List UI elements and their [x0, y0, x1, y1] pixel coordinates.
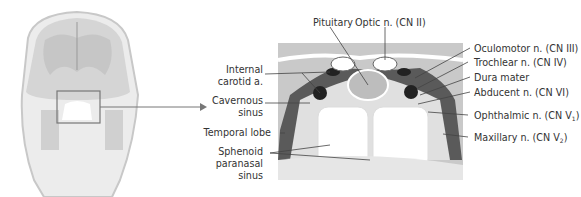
- arrow-icon: [200, 103, 207, 111]
- label-maxillary: Maxillary n. (CN V2): [474, 132, 567, 147]
- label-sphenoid-sinus: Sphenoid paranasal sinus: [216, 146, 263, 182]
- label-abducent: Abducent n. (CN VI): [474, 87, 569, 99]
- label-internal-carotid: Internal carotid a.: [218, 64, 263, 88]
- label-optic-nerve: Optic n. (CN II): [355, 17, 426, 29]
- label-dura-mater: Dura mater: [474, 72, 529, 84]
- cavernous-sinus-detail: [278, 43, 463, 180]
- coronal-head-overview: [22, 12, 207, 197]
- label-temporal-lobe: Temporal lobe: [203, 127, 271, 139]
- label-oculomotor: Oculomotor n. (CN III): [474, 43, 578, 55]
- label-ophthalmic: Ophthalmic n. (CN V1): [474, 110, 579, 125]
- label-cavernous-sinus: Cavernous sinus: [212, 95, 263, 119]
- label-trochlear: Trochlear n. (CN IV): [474, 57, 567, 69]
- label-pituitary: Pituitary: [313, 17, 353, 29]
